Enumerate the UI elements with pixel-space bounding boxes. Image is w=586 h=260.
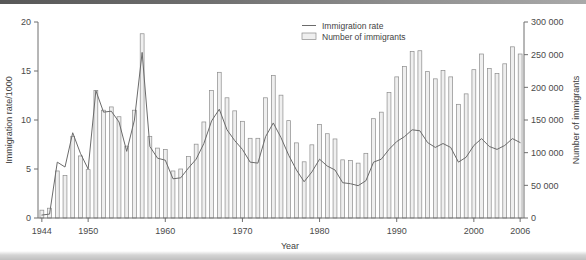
right-axis-title: Number of immigrants bbox=[571, 75, 581, 164]
bar bbox=[295, 143, 299, 218]
right-axis-tick-label: 150 000 bbox=[531, 115, 564, 125]
bar bbox=[287, 121, 291, 218]
bar bbox=[102, 110, 106, 218]
bar bbox=[395, 77, 399, 218]
bar bbox=[349, 161, 353, 218]
bar bbox=[518, 54, 522, 218]
bar bbox=[94, 91, 98, 218]
bar bbox=[310, 145, 314, 218]
right-axis: 050 000100 000150 000200 000250 000300 0… bbox=[524, 17, 564, 223]
bar bbox=[379, 112, 383, 218]
bar bbox=[433, 79, 437, 218]
bar bbox=[256, 138, 260, 218]
bar bbox=[426, 72, 430, 218]
bar bbox=[40, 210, 44, 218]
chart-figure: 05101520 050 000100 000150 000200 000250… bbox=[0, 0, 586, 260]
legend-label-number-of-immigrants: Number of immigrants bbox=[322, 32, 406, 42]
bar bbox=[55, 171, 59, 218]
bar bbox=[279, 95, 283, 218]
bar bbox=[225, 98, 229, 218]
bar bbox=[271, 76, 275, 218]
bar bbox=[318, 125, 322, 218]
bar bbox=[480, 54, 484, 218]
x-axis-tick-label: 2000 bbox=[464, 226, 484, 236]
left-axis-tick-label: 20 bbox=[21, 17, 31, 27]
bottom-axis: 19441950196019701980199020002006 bbox=[32, 218, 530, 236]
bar bbox=[387, 93, 391, 218]
right-axis-tick-label: 50 000 bbox=[531, 181, 559, 191]
bar bbox=[302, 162, 306, 218]
bar bbox=[241, 121, 245, 218]
bar bbox=[356, 163, 360, 218]
bar bbox=[79, 156, 83, 218]
x-axis-tick-label: 1950 bbox=[78, 226, 98, 236]
bar bbox=[487, 68, 491, 218]
bar bbox=[233, 111, 237, 218]
bar bbox=[364, 153, 368, 218]
bar bbox=[117, 117, 121, 218]
bar bbox=[217, 72, 221, 218]
x-axis-tick-label: 2006 bbox=[510, 226, 530, 236]
left-axis: 05101520 bbox=[21, 17, 38, 223]
x-axis-tick-label: 1990 bbox=[387, 226, 407, 236]
right-axis-tick-label: 100 000 bbox=[531, 148, 564, 158]
bar bbox=[210, 91, 214, 218]
bar bbox=[372, 119, 376, 218]
x-axis-title: Year bbox=[281, 241, 299, 251]
bar bbox=[511, 47, 515, 218]
bar bbox=[495, 74, 499, 218]
chart-legend: Immigration rate Number of immigrants bbox=[302, 21, 406, 42]
x-axis-tick-label: 1960 bbox=[155, 226, 175, 236]
bar bbox=[325, 134, 329, 218]
bar bbox=[109, 107, 113, 218]
bar bbox=[86, 170, 90, 218]
bar bbox=[248, 138, 252, 218]
bar bbox=[264, 98, 268, 218]
left-axis-tick-label: 15 bbox=[21, 66, 31, 76]
bar bbox=[410, 51, 414, 218]
bar bbox=[333, 139, 337, 218]
bar bbox=[125, 146, 129, 218]
bar bbox=[63, 176, 67, 218]
left-axis-tick-label: 5 bbox=[26, 164, 31, 174]
left-axis-tick-label: 10 bbox=[21, 115, 31, 125]
right-axis-tick-label: 250 000 bbox=[531, 50, 564, 60]
legend-bar-swatch bbox=[302, 33, 316, 40]
chart-canvas: 05101520 050 000100 000150 000200 000250… bbox=[0, 0, 586, 260]
x-axis-tick-label: 1944 bbox=[32, 226, 52, 236]
x-axis-tick-label: 1980 bbox=[310, 226, 330, 236]
right-axis-tick-label: 200 000 bbox=[531, 83, 564, 93]
x-axis-tick-label: 1970 bbox=[232, 226, 252, 236]
bars-series-number-of-immigrants bbox=[40, 34, 522, 218]
right-axis-tick-label: 0 bbox=[531, 213, 536, 223]
bar bbox=[503, 64, 507, 218]
left-axis-tick-label: 0 bbox=[26, 213, 31, 223]
bar bbox=[341, 160, 345, 218]
bar bbox=[194, 144, 198, 218]
bar bbox=[403, 66, 407, 218]
legend-label-immigration-rate: Immigration rate bbox=[322, 21, 384, 31]
bar bbox=[202, 122, 206, 218]
bar bbox=[71, 136, 75, 218]
left-axis-title: Immigration rate/1000 bbox=[4, 76, 14, 164]
bar bbox=[418, 51, 422, 218]
right-axis-tick-label: 300 000 bbox=[531, 17, 564, 27]
